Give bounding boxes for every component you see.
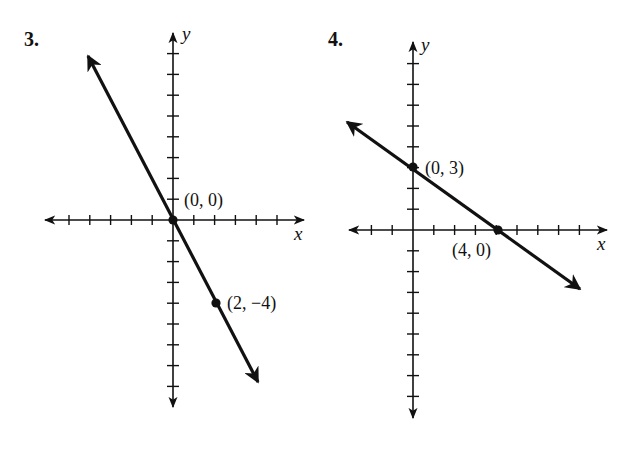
graph-3: 3. y x (0, 0) (2, −4) [24, 23, 304, 407]
point-label-0-3: (0, 3) [425, 158, 464, 179]
problem-number-3: 3. [24, 28, 39, 50]
graph-4: 4. y x (0, 3) (4, 0) [328, 28, 607, 418]
point-0-3 [408, 162, 417, 171]
x-axis-label: x [293, 223, 303, 244]
point-2-neg4 [211, 298, 220, 307]
point-4-0 [493, 225, 502, 234]
point-label-4-0: (4, 0) [452, 240, 491, 261]
point-label-0-0: (0, 0) [184, 190, 223, 211]
plotted-line-4 [347, 122, 580, 289]
point-label-2-neg4: (2, −4) [227, 293, 276, 314]
x-axis-label: x [596, 233, 606, 254]
point-origin [168, 215, 177, 224]
problem-number-4: 4. [328, 28, 343, 50]
y-axis-label: y [419, 34, 430, 55]
y-axis-label: y [180, 23, 191, 44]
figure: 3. y x (0, 0) (2, −4) 4. y x (0, 3) (4, … [0, 0, 631, 454]
